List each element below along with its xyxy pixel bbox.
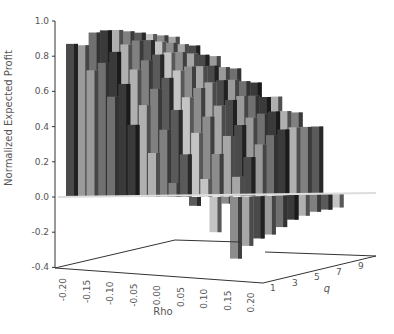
bar3d-chart: 1.00.80.60.40.20.0-0.2-0.4-0.20-0.15-0.1… <box>0 0 394 334</box>
z-axis-label: Normalized Expected Profit <box>3 50 14 186</box>
rho-tick-label: 0.05 <box>176 287 186 307</box>
bar <box>200 179 212 197</box>
z-tick-label: 0.6 <box>35 86 50 96</box>
y-axis-label: q <box>324 283 330 294</box>
z-tick-label: 0.4 <box>35 122 50 132</box>
bar <box>309 194 321 212</box>
chart-bars <box>66 30 344 259</box>
bar <box>332 193 344 207</box>
bar <box>266 135 278 195</box>
rho-tick-label: 0.20 <box>246 292 256 312</box>
q-tick-label: 9 <box>358 261 364 271</box>
bar <box>253 196 265 238</box>
bar <box>128 125 140 197</box>
bar <box>212 154 224 196</box>
q-tick-label: 7 <box>336 267 342 277</box>
bar <box>320 194 332 210</box>
q-tick-label: 5 <box>314 272 320 282</box>
z-tick-label: 1.0 <box>35 16 50 26</box>
floor-left-edge <box>55 240 175 268</box>
rho-tick-label: -0.10 <box>105 281 115 305</box>
bar <box>241 197 253 246</box>
bar <box>230 197 242 259</box>
bar <box>298 195 310 216</box>
z-tick-label: -0.4 <box>31 262 49 272</box>
bar <box>210 197 222 232</box>
z-tick-label: 0.0 <box>35 192 50 202</box>
rho-tick-label: 0.00 <box>152 285 162 305</box>
bar <box>275 195 287 227</box>
rho-tick-label: -0.15 <box>82 280 92 303</box>
x-axis-label: Rho <box>153 306 172 317</box>
bar <box>264 196 276 235</box>
bar <box>180 154 192 196</box>
bar <box>189 197 201 206</box>
bar <box>66 44 78 197</box>
bar <box>87 70 99 197</box>
rho-tick-label: 0.10 <box>199 289 209 309</box>
bar <box>289 127 301 194</box>
z-tick-label: 0.8 <box>35 51 50 61</box>
rho-tick-label: -0.05 <box>129 283 139 306</box>
bar <box>148 153 160 197</box>
bar <box>255 144 267 195</box>
rho-tick-label: -0.20 <box>58 278 68 302</box>
bar <box>311 127 323 194</box>
z-tick-label: 0.2 <box>35 157 49 167</box>
z-tick-label: -0.2 <box>31 227 49 237</box>
bar <box>232 177 244 196</box>
q-tick-label: 3 <box>292 278 298 288</box>
bar <box>300 127 312 194</box>
q-tick-label: 1 <box>270 283 276 293</box>
rho-tick-label: 0.15 <box>223 291 233 311</box>
bar <box>287 195 299 220</box>
floor-front-edges <box>55 256 376 283</box>
bar <box>107 97 119 197</box>
bar <box>277 129 289 194</box>
bar <box>243 157 255 196</box>
